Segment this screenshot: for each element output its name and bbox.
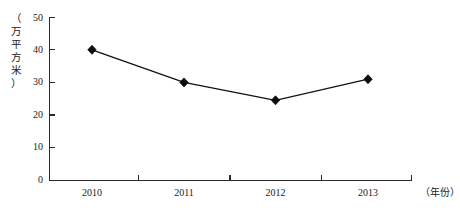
chart-canvas: （ 万 平 方 米 ） 50 40 30 20 10 0 xyxy=(0,0,460,213)
data-markers xyxy=(88,45,372,105)
y-axis-unit-char-4: 米 xyxy=(11,64,22,76)
x-tick-label-2012: 2012 xyxy=(266,187,286,198)
y-tick-label-40: 40 xyxy=(33,44,43,55)
y-tick-label-0: 0 xyxy=(38,174,43,185)
data-point-2011 xyxy=(180,78,188,87)
y-axis-unit-char-3: 方 xyxy=(11,51,21,63)
y-tick-label-10: 10 xyxy=(33,141,43,152)
x-tick-label-2011: 2011 xyxy=(174,187,194,198)
line-chart-figure: （ 万 平 方 米 ） 50 40 30 20 10 0 xyxy=(0,0,460,213)
y-axis-unit-label: （ 万 平 方 米 ） xyxy=(11,13,22,89)
y-axis-ticks xyxy=(50,17,56,147)
x-axis-unit-label: （年份） xyxy=(420,186,460,198)
y-axis-unit-char-2: 平 xyxy=(11,39,21,50)
y-axis-unit-char-1: 万 xyxy=(11,26,21,37)
data-point-2012 xyxy=(271,96,279,105)
x-axis-ticks xyxy=(139,175,412,181)
y-tick-label-50: 50 xyxy=(33,12,43,23)
chart-axes xyxy=(50,17,413,181)
data-point-2010 xyxy=(88,45,96,54)
x-tick-label-2010: 2010 xyxy=(82,187,102,198)
y-tick-label-30: 30 xyxy=(33,76,43,87)
data-point-2013 xyxy=(364,75,372,84)
y-axis-unit-char-0: （ xyxy=(11,13,21,24)
data-series-line xyxy=(92,50,368,101)
y-tick-label-20: 20 xyxy=(33,109,43,120)
y-axis-unit-char-5: ） xyxy=(11,78,21,89)
x-tick-label-2013: 2013 xyxy=(358,187,378,198)
x-axis-tick-labels: 2010 2011 2012 2013 xyxy=(82,187,378,198)
y-axis-tick-labels: 50 40 30 20 10 0 xyxy=(33,12,43,186)
